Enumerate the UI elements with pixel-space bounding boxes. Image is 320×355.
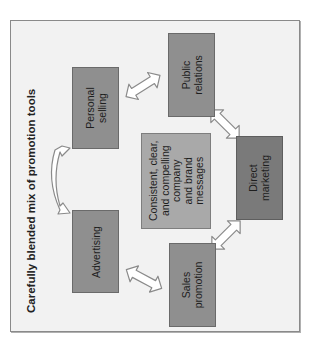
node-label: Personal selling xyxy=(83,87,107,128)
arrow-advertising-personal-icon xyxy=(51,146,70,214)
node-label: Advertising xyxy=(90,226,102,278)
node-label: Direct marketing xyxy=(248,155,272,201)
node-label: Sales promotion xyxy=(181,262,205,309)
node-advertising: Advertising xyxy=(72,210,119,293)
center-message-box: Consistent, clear, and compelling compan… xyxy=(141,133,211,229)
arrow-personal-public-icon xyxy=(121,68,164,104)
node-personal-selling: Personal selling xyxy=(72,67,119,149)
center-label: Consistent, clear, and compelling compan… xyxy=(147,141,205,222)
node-direct-marketing: Direct marketing xyxy=(236,136,283,220)
arrow-sales-advertising-icon xyxy=(122,262,166,297)
node-public-relations: Public relations xyxy=(168,33,215,117)
node-label: Public relations xyxy=(179,55,203,95)
node-sales-promotion: Sales promotion xyxy=(169,243,216,327)
